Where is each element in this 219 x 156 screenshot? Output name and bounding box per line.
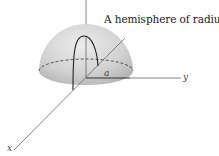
y-axis-label: y <box>183 72 188 82</box>
diagram-caption: A hemisphere of radius a <box>104 13 219 25</box>
x-axis-label: x <box>7 143 12 153</box>
radius-label: a <box>104 68 109 78</box>
